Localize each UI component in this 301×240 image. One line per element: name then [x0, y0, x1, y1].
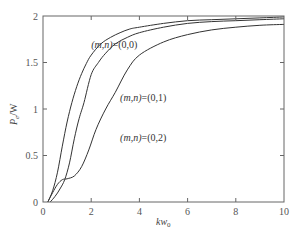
- y-tick-label: 1: [33, 104, 38, 115]
- curve-01: [50, 19, 284, 202]
- x-tick-label: 0: [41, 206, 46, 217]
- curve-label: (m,n)=(0,2): [120, 132, 166, 144]
- curve-00: [48, 17, 284, 202]
- curve-group: [48, 17, 284, 202]
- x-tick-label: 4: [137, 206, 142, 217]
- plot-frame: [43, 16, 284, 202]
- axis-ticks: [43, 16, 284, 202]
- axis-tick-labels: 024681000.511.52: [26, 11, 290, 218]
- y-tick-label: 0: [33, 197, 38, 208]
- y-tick-label: 2: [33, 11, 38, 22]
- y-tick-label: 0.5: [26, 150, 39, 161]
- curve-02: [48, 24, 284, 202]
- x-axis-label: kw0: [156, 216, 171, 229]
- curve-label: (m,n)=(0,1): [120, 92, 166, 104]
- curve-labels: (m,n)=(0,0)(m,n)=(0,1)(m,n)=(0,2): [91, 39, 166, 144]
- y-axis-label: Pe/W: [8, 103, 21, 126]
- x-tick-label: 8: [233, 206, 238, 217]
- x-tick-label: 2: [89, 206, 94, 217]
- x-tick-label: 10: [279, 206, 289, 217]
- x-tick-label: 6: [185, 206, 190, 217]
- y-tick-label: 1.5: [26, 57, 39, 68]
- curve-label: (m,n)=(0,0): [91, 39, 137, 51]
- line-chart: 024681000.511.52 (m,n)=(0,0)(m,n)=(0,1)(…: [0, 0, 301, 240]
